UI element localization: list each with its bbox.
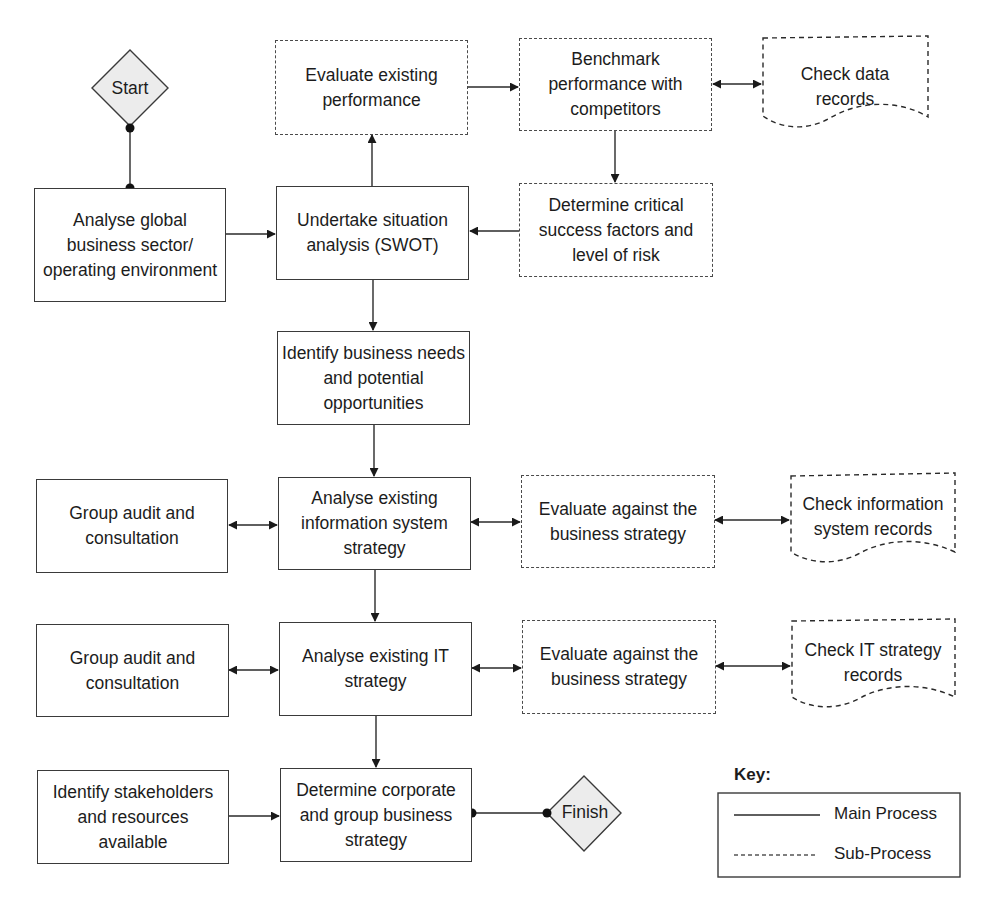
node-identify-stakeholders: Identify stakeholders and resources avai… [37,770,229,864]
start-label: Start [112,78,149,99]
node-label: Benchmark performance with competitors [524,47,707,122]
node-group-audit-1: Group audit and consultation [36,479,228,573]
start-dot [126,124,135,133]
node-label: Evaluate against the business strategy [527,642,711,692]
node-check-is-records: Check information system records [793,474,953,564]
node-label: Determine corporate and group business s… [285,778,467,853]
node-label: Analyse existing IT strategy [284,644,467,694]
node-check-it-records: Check IT strategy records [794,620,952,710]
key-sub-label: Sub-Process [834,844,931,864]
node-check-data-records: Check data records [770,40,920,130]
node-label: Check IT strategy records [798,638,948,688]
node-evaluate-is: Evaluate against the business strategy [521,475,715,568]
node-identify-needs: Identify business needs and potential op… [277,331,470,425]
node-swot: Undertake situation analysis (SWOT) [276,186,469,280]
node-group-audit-2: Group audit and consultation [36,624,229,717]
node-label: Check information system records [797,492,949,542]
node-label: Identify stakeholders and resources avai… [42,780,224,855]
finish-dot [543,809,552,818]
node-analyse-it: Analyse existing IT strategy [279,622,472,716]
node-label: Undertake situation analysis (SWOT) [281,208,464,258]
node-label: Determine critical success factors and l… [524,193,708,268]
node-determine-csf: Determine critical success factors and l… [519,183,713,277]
key-title: Key: [734,765,771,785]
key-main-label: Main Process [834,804,937,824]
node-label: Group audit and consultation [41,501,223,551]
node-label: Identify business needs and potential op… [282,341,465,416]
node-label: Evaluate existing performance [280,63,463,113]
node-analyse-is: Analyse existing information system stra… [278,477,471,570]
node-evaluate-performance: Evaluate existing performance [275,40,468,135]
node-determine-corporate: Determine corporate and group business s… [280,768,472,862]
node-benchmark: Benchmark performance with competitors [519,38,712,131]
node-label: Evaluate against the business strategy [526,497,710,547]
node-evaluate-it: Evaluate against the business strategy [522,620,716,714]
finish-label: Finish [562,802,609,823]
node-label: Analyse global business sector/ operatin… [39,208,221,283]
node-label: Check data records [774,62,916,112]
node-analyse-global: Analyse global business sector/ operatin… [34,188,226,302]
node-label: Group audit and consultation [41,646,224,696]
node-label: Analyse existing information system stra… [283,486,466,561]
